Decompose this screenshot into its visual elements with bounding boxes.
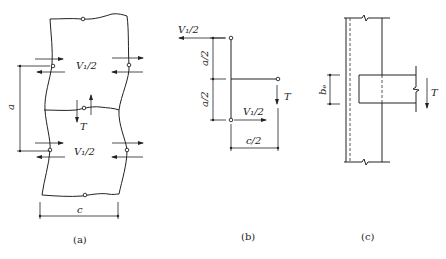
panel-a-left-edge	[42, 19, 52, 195]
label-v1-half-top-b: V₁/2	[178, 24, 199, 35]
label-be: bₑ	[317, 85, 328, 95]
node-icon	[229, 36, 233, 40]
dim-tick-icon	[212, 37, 214, 39]
label-v1-half-bottom-b: V₁/2	[243, 106, 264, 117]
label-dim-a: a	[5, 104, 16, 110]
dim-tick-icon	[212, 119, 214, 121]
label-torque-b: T	[284, 91, 292, 102]
dim-tick-icon	[329, 74, 331, 76]
caption-a: (a)	[73, 234, 87, 245]
label-c-half: c/2	[246, 135, 261, 146]
panel-c: T bₑ (c)	[317, 15, 439, 242]
node-icon	[229, 118, 233, 122]
break-line-top-icon	[344, 15, 390, 21]
dim-tick-icon	[277, 147, 279, 149]
node-icon	[51, 64, 55, 68]
node-icon	[125, 148, 129, 152]
panel-a: V₁/2 T V₁/2 a c (a)	[5, 14, 143, 245]
dim-tick-icon	[212, 78, 214, 80]
node-icon	[127, 63, 131, 67]
panel-a-mid-line	[44, 107, 119, 111]
break-line-bottom-icon	[344, 159, 390, 165]
caption-c: (c)	[361, 231, 375, 242]
dim-tick-icon	[329, 103, 331, 105]
beam-break-line-icon	[413, 66, 419, 112]
dim-tick-icon	[230, 147, 232, 149]
node-icon	[82, 106, 86, 110]
panel-b: V₁/2 V₁/2 T a/2 a/2 c/2 (b)	[178, 24, 292, 242]
panel-a-right-edge	[119, 16, 129, 194]
node-icon	[83, 193, 87, 197]
caption-b: (b)	[241, 231, 255, 242]
label-torque-a: T	[80, 121, 88, 132]
panel-a-top-edge	[50, 14, 127, 19]
label-dim-c: c	[77, 204, 83, 215]
panel-a-bottom-edge	[42, 194, 119, 197]
node-icon	[276, 77, 280, 81]
label-v1-half-bottom: V₁/2	[74, 146, 95, 157]
label-a-half-bottom: a/2	[199, 91, 210, 107]
label-a-half-top: a/2	[199, 50, 210, 66]
label-v1-half-top: V₁/2	[76, 60, 97, 71]
label-torque-c: T	[431, 87, 439, 98]
node-icon	[81, 17, 85, 21]
joint-free-body-diagram: V₁/2 T V₁/2 a c (a) V₁/2	[0, 0, 446, 259]
